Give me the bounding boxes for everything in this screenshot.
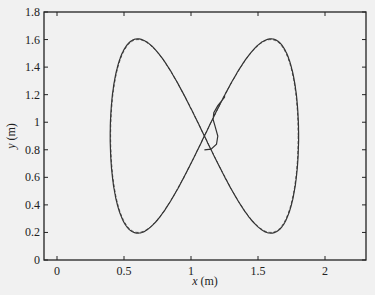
x-tick-label: 1.5: [251, 264, 266, 278]
y-tick-label: 0.4: [25, 198, 40, 212]
y-tick-label: 1.6: [25, 33, 40, 47]
y-tick-label: 1: [34, 115, 40, 129]
y-tick-label: 0.2: [25, 225, 40, 239]
y-axis-ticks: 00.20.40.60.811.21.41.61.8: [25, 5, 366, 267]
x-tick-label: 0: [54, 264, 60, 278]
y-tick-label: 1.2: [25, 88, 40, 102]
x-axis-label: x (m): [191, 274, 218, 288]
x-axis-ticks: 00.511.52: [54, 12, 328, 278]
y-tick-label: 0: [34, 253, 40, 267]
y-tick-label: 0.8: [25, 143, 40, 157]
x-tick-label: 2: [322, 264, 328, 278]
y-tick-label: 0.6: [25, 170, 40, 184]
y-tick-label: 1.4: [25, 60, 40, 74]
y-axis-label: y (m): [4, 123, 18, 150]
x-tick-label: 0.5: [117, 264, 132, 278]
trajectory-chart: 00.511.52 00.20.40.60.811.21.41.61.8 x (…: [0, 0, 375, 295]
actual-trajectory-line: [110, 39, 298, 233]
y-tick-label: 1.8: [25, 5, 40, 19]
